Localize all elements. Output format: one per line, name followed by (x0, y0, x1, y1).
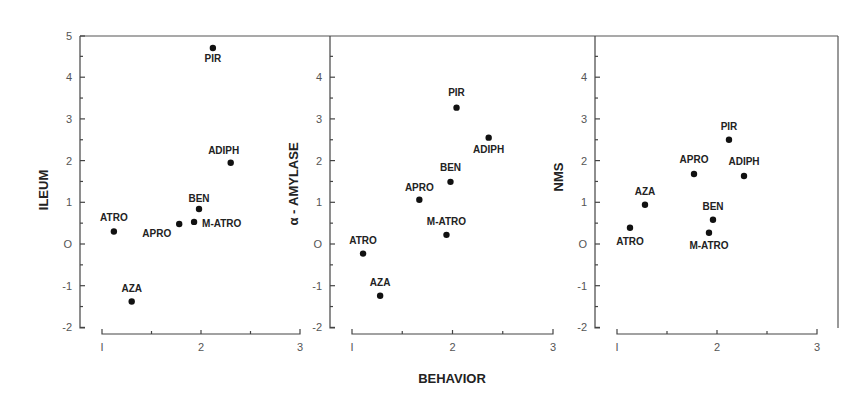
data-point-adiph (741, 173, 747, 179)
y-tick-label: 2 (316, 155, 322, 167)
y-tick-label: 1 (316, 196, 322, 208)
y-tick-label: 4 (316, 71, 322, 83)
y-tick-label: 1 (66, 196, 72, 208)
data-point-pir (453, 104, 459, 110)
point-label-adiph: ADIPH (728, 156, 759, 167)
x-tick-label: I (615, 341, 618, 353)
point-label-aza: AZA (635, 186, 656, 197)
point-label-atro: ATRO (616, 236, 644, 247)
y-tick-label: -2 (577, 321, 587, 333)
point-label-m-atro: M-ATRO (202, 218, 241, 229)
y-tick-label: 2 (66, 155, 72, 167)
data-point-aza (129, 298, 135, 304)
y-tick-label: O (313, 238, 322, 250)
panel-nms: -2-1O1234I23PIRADIPHAPROAZABENATROM-ATRO (577, 36, 820, 353)
point-label-apro: APRO (405, 182, 434, 193)
x-tick-label: I (100, 341, 103, 353)
data-point-ben (196, 206, 202, 212)
data-point-ben (447, 179, 453, 185)
data-point-apro (416, 197, 422, 203)
panel-alpha-amylase: -2-1O1234I23PIRADIPHBENAPROM-ATROATROAZA (312, 36, 556, 353)
y-axis-title-amylase: α - AMYLASE (286, 142, 301, 225)
y-tick-label: 3 (581, 113, 587, 125)
y-tick-label: 4 (581, 71, 587, 83)
y-axis-title-ileum: ILEUM (36, 170, 51, 210)
x-axis-title-behavior: BEHAVIOR (418, 371, 486, 386)
y-tick-label: -1 (312, 280, 322, 292)
data-point-m-atro (191, 219, 197, 225)
point-label-m-atro: M-ATRO (689, 240, 728, 251)
panel-ileum: -2-1O12345I23PIRADIPHBENM-ATROAPROATROAZ… (62, 30, 303, 354)
x-tick-label: 3 (814, 341, 820, 353)
y-tick-label: 5 (66, 30, 72, 42)
data-point-apro (176, 221, 182, 227)
point-label-ben: BEN (702, 201, 723, 212)
data-point-ben (710, 217, 716, 223)
y-tick-label: -2 (62, 321, 72, 333)
y-axis-title-nms: NMS (551, 162, 566, 191)
y-tick-label: O (63, 238, 72, 250)
point-label-aza: AZA (370, 277, 391, 288)
data-point-apro (691, 171, 697, 177)
point-label-atro: ATRO (349, 235, 377, 246)
y-tick-label: -1 (62, 280, 72, 292)
data-point-adiph (485, 134, 491, 140)
data-point-aza (642, 202, 648, 208)
data-point-m-atro (706, 230, 712, 236)
data-point-atro (360, 250, 366, 256)
y-tick-label: 3 (66, 113, 72, 125)
point-label-pir: PIR (721, 121, 738, 132)
data-point-adiph (228, 159, 234, 165)
data-point-aza (377, 293, 383, 299)
point-label-apro: APRO (142, 228, 171, 239)
y-tick-label: 4 (66, 71, 72, 83)
x-tick-label: 2 (449, 341, 455, 353)
point-label-pir: PIR (205, 53, 222, 64)
point-label-adiph: ADIPH (473, 144, 504, 155)
x-tick-label: 3 (550, 341, 556, 353)
data-point-atro (627, 225, 633, 231)
data-point-pir (210, 45, 216, 51)
y-tick-label: 3 (316, 113, 322, 125)
chart-canvas: -2-1O12345I23PIRADIPHBENM-ATROAPROATROAZ… (0, 0, 868, 400)
point-label-apro: APRO (680, 154, 709, 165)
y-tick-label: 1 (581, 196, 587, 208)
x-tick-label: 3 (297, 341, 303, 353)
y-tick-label: -2 (312, 321, 322, 333)
point-label-ben: BEN (440, 162, 461, 173)
y-tick-label: 2 (581, 155, 587, 167)
point-label-ben: BEN (188, 193, 209, 204)
point-label-m-atro: M-ATRO (427, 216, 466, 227)
x-tick-label: 2 (714, 341, 720, 353)
point-label-atro: ATRO (100, 212, 128, 223)
y-tick-label: O (578, 238, 587, 250)
data-point-atro (111, 228, 117, 234)
x-tick-label: I (350, 341, 353, 353)
data-point-pir (726, 137, 732, 143)
point-label-adiph: ADIPH (208, 145, 239, 156)
x-tick-label: 2 (198, 341, 204, 353)
y-tick-label: -1 (577, 280, 587, 292)
point-label-aza: AZA (121, 283, 142, 294)
point-label-pir: PIR (448, 87, 465, 98)
data-point-m-atro (443, 232, 449, 238)
scatter-figure: -2-1O12345I23PIRADIPHBENM-ATROAPROATROAZ… (0, 0, 868, 400)
